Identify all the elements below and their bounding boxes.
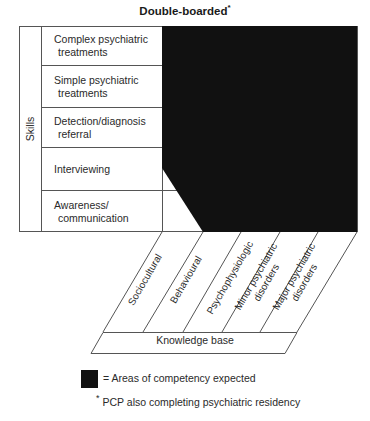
legend-swatch bbox=[81, 370, 98, 388]
legend-text: = Areas of competency expected bbox=[103, 372, 256, 384]
skill-row: Detection/diagnosisreferral bbox=[42, 108, 162, 147]
footnote-marker: * bbox=[96, 393, 100, 403]
skills-label: Skills bbox=[24, 117, 36, 142]
skill-label: Awareness/ bbox=[42, 199, 129, 212]
kb-column-line bbox=[143, 232, 203, 332]
skill-label: referral bbox=[42, 128, 146, 141]
skill-label: Detection/diagnosis bbox=[42, 115, 146, 128]
skills-axis-label: Skills bbox=[19, 26, 41, 232]
skill-label: treatments bbox=[42, 87, 139, 100]
skill-row: Complex psychiatrictreatments bbox=[42, 27, 162, 65]
kb-column-line bbox=[103, 232, 162, 332]
skill-label: Complex psychiatric bbox=[42, 33, 148, 46]
skill-row: Interviewing bbox=[42, 148, 162, 190]
skill-label: Simple psychiatric bbox=[42, 74, 139, 87]
knowledge-base-label: Knowledge base bbox=[95, 334, 295, 346]
skill-row: Simple psychiatrictreatments bbox=[42, 66, 162, 107]
footnote-text: PCP also completing psychiatric residenc… bbox=[103, 396, 301, 408]
skill-label: communication bbox=[42, 212, 129, 225]
competency-area bbox=[162, 26, 357, 232]
footnote: *PCP also completing psychiatric residen… bbox=[96, 393, 300, 408]
skill-row: Awareness/communication bbox=[42, 191, 162, 232]
skill-label: treatments bbox=[42, 46, 148, 59]
skill-label: Interviewing bbox=[42, 163, 110, 176]
